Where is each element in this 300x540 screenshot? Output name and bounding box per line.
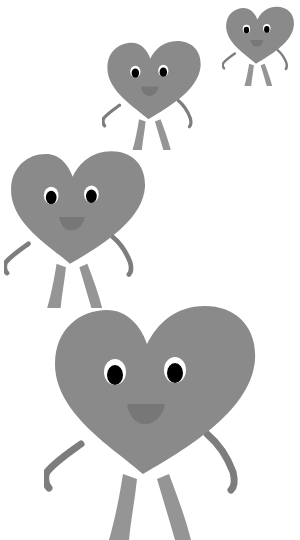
heart-character-small <box>222 6 298 86</box>
heart-character-large <box>4 150 152 308</box>
heart-character-xlarge <box>44 304 266 540</box>
heart-icon <box>102 40 206 150</box>
heart-icon <box>44 304 266 540</box>
heart-icon <box>222 6 298 86</box>
heart-icon <box>4 150 152 308</box>
heart-character-medium <box>102 40 206 150</box>
